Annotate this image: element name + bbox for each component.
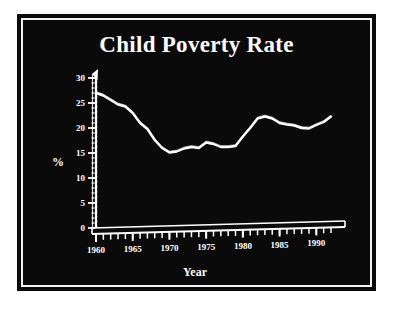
line-chart: 051015202530 196019651970197519801985199…: [17, 14, 376, 291]
x-tick-label: 1965: [124, 244, 143, 254]
y-tick-label: 25: [76, 98, 86, 108]
y-tick-label: 0: [81, 223, 86, 233]
x-tick-label: 1985: [271, 240, 290, 250]
chart-page: Child Poverty Rate 051015202530 19601965…: [0, 0, 393, 312]
x-tick-label: 1980: [234, 241, 253, 251]
y-tick-label: 20: [76, 123, 86, 133]
y-axis-label: %: [52, 155, 64, 169]
y-tick-label: 5: [81, 198, 86, 208]
x-tick-label: 1970: [160, 243, 179, 253]
x-tick-label: 1990: [307, 238, 326, 248]
x-tick-label: 1975: [197, 242, 216, 252]
y-tick-label: 15: [76, 148, 86, 158]
x-axis: 1960196519701975198019851990: [87, 221, 345, 255]
x-tick-label: 1960: [87, 245, 106, 255]
y-tick-label: 10: [76, 173, 86, 183]
data-series-line: [96, 92, 331, 153]
y-axis: 051015202530: [76, 69, 98, 233]
plot-area: 051015202530 196019651970197519801985199…: [17, 14, 376, 291]
x-axis-label: Year: [183, 265, 208, 279]
y-tick-label: 30: [76, 73, 86, 83]
